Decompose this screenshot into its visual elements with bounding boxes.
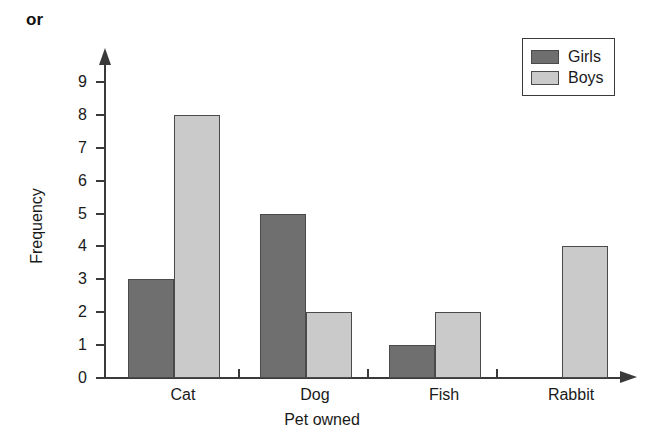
grouped-bar-chart: 0123456789 CatDogFishRabbit Frequency Pe…: [0, 0, 660, 439]
y-axis-tick-label: 8: [67, 107, 87, 123]
bar-fish-girls: [389, 345, 435, 378]
y-axis-arrowhead: [99, 48, 111, 65]
bar-fish-boys: [435, 312, 481, 378]
y-axis-tick: [96, 377, 105, 379]
y-axis-tick-label: 5: [67, 206, 87, 222]
y-axis-tick: [96, 213, 105, 215]
x-axis-title: Pet owned: [232, 412, 412, 428]
x-axis-separator-tick: [367, 369, 369, 378]
y-axis-tick: [96, 81, 105, 83]
y-axis-title: Frequency: [29, 156, 45, 296]
x-axis-separator-tick: [496, 369, 498, 378]
legend-swatch-boys: [531, 71, 559, 85]
y-axis-tick: [96, 180, 105, 182]
bar-dog-girls: [260, 214, 306, 379]
y-axis-tick-label: 9: [67, 74, 87, 90]
y-axis-tick-label: 6: [67, 173, 87, 189]
y-axis-tick-label: 2: [67, 304, 87, 320]
x-axis-label-cat: Cat: [128, 386, 238, 404]
x-axis-label-rabbit: Rabbit: [516, 386, 626, 404]
y-axis-tick-label: 4: [67, 238, 87, 254]
y-axis-tick-label: 7: [67, 140, 87, 156]
bar-rabbit-boys: [562, 246, 608, 378]
x-axis-label-dog: Dog: [260, 386, 370, 404]
y-axis-tick: [96, 147, 105, 149]
y-axis-tick-label: 0: [67, 370, 87, 386]
legend-item-boys[interactable]: Boys: [531, 67, 604, 88]
x-axis-label-fish: Fish: [389, 386, 499, 404]
y-axis-tick: [96, 114, 105, 116]
y-axis-tick-label: 1: [67, 337, 87, 353]
y-axis-tick-label: 3: [67, 271, 87, 287]
x-axis-arrowhead: [620, 371, 637, 383]
x-axis-separator-tick: [238, 369, 240, 378]
y-axis-tick: [96, 278, 105, 280]
bar-cat-boys: [174, 115, 220, 378]
bar-dog-boys: [306, 312, 352, 378]
y-axis-tick: [96, 245, 105, 247]
y-axis-tick: [96, 311, 105, 313]
legend: GirlsBoys: [522, 38, 615, 96]
legend-swatch-girls: [531, 50, 559, 64]
legend-item-girls[interactable]: Girls: [531, 46, 604, 67]
y-axis-line: [104, 62, 106, 379]
legend-label-girls: Girls: [568, 49, 601, 65]
bar-cat-girls: [128, 279, 174, 378]
legend-label-boys: Boys: [568, 70, 604, 86]
y-axis-tick: [96, 344, 105, 346]
